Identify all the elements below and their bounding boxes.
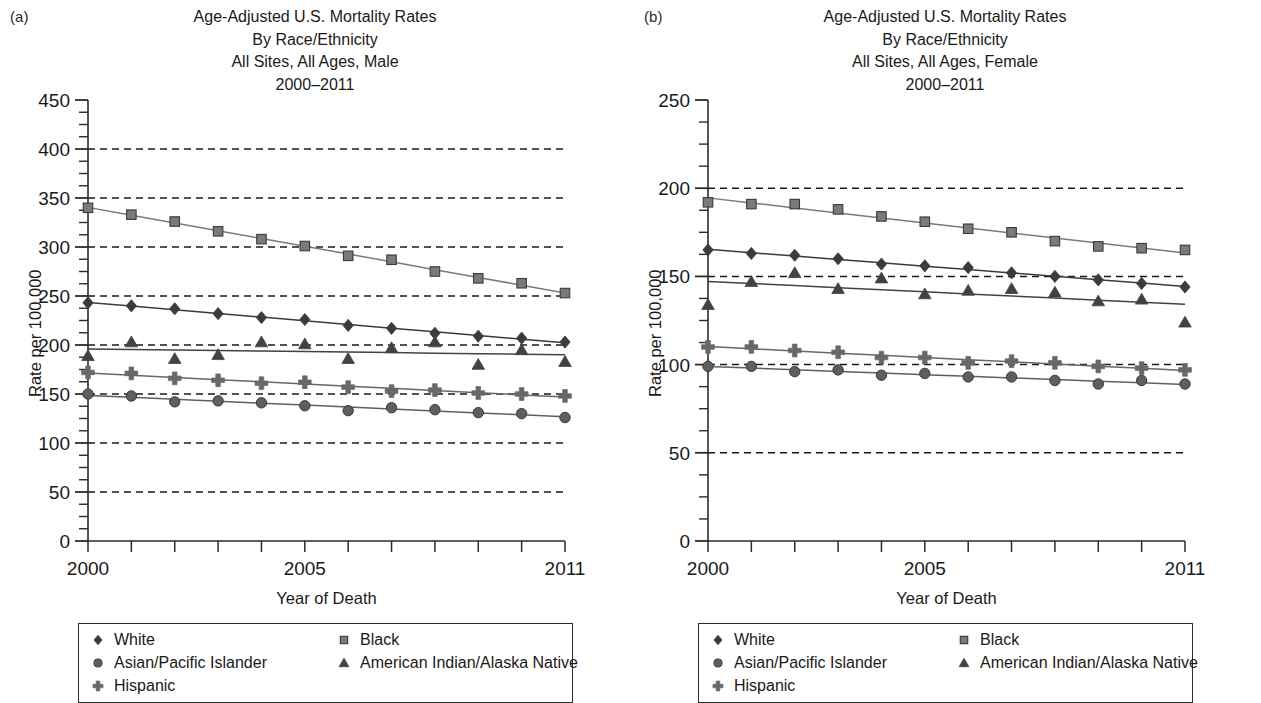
plus-marker (1005, 355, 1018, 368)
diamond-marker (126, 300, 136, 312)
triangle-marker (1049, 286, 1062, 297)
diamond-marker (94, 635, 102, 645)
diamond-marker (170, 303, 180, 315)
square-marker (790, 199, 800, 209)
square-marker (747, 199, 757, 209)
plus-marker (125, 367, 138, 380)
circle-marker (83, 389, 93, 399)
circle-marker (256, 398, 266, 408)
square-marker (340, 636, 347, 643)
y-tick-label: 400 (38, 139, 70, 160)
plus-marker (1049, 356, 1062, 369)
plus-marker (788, 344, 801, 357)
diamond-marker (256, 311, 266, 323)
circle-marker (1136, 375, 1146, 385)
series-line-triangle-marker (708, 281, 1185, 304)
y-tick-label: 450 (38, 90, 70, 111)
x-tick-label: 2000 (67, 558, 109, 579)
triangle-marker (875, 272, 888, 283)
panel-a-svg: 050100150200250300350400450200020052011 (0, 0, 630, 600)
panel-b-svg: 050100150200250200020052011 (630, 0, 1260, 600)
square-marker (833, 205, 843, 215)
triangle-marker (125, 336, 138, 347)
plus-marker (918, 351, 931, 364)
diamond-marker (213, 308, 223, 320)
square-marker (1094, 242, 1104, 252)
plus-marker (962, 356, 975, 369)
triangle-marker (168, 353, 181, 364)
diamond-marker (1180, 281, 1190, 293)
plus-marker (93, 681, 103, 691)
square-marker (170, 217, 180, 227)
square-marker (1050, 236, 1060, 246)
panel-b-y-axis-label: Rate per 100,000 (646, 269, 665, 397)
diamond-marker (1136, 277, 1146, 289)
legend-entry: Black (957, 631, 1019, 649)
legend-entry: White (91, 631, 155, 649)
y-tick-label: 350 (38, 188, 70, 209)
square-marker (703, 198, 713, 208)
square-marker (960, 636, 967, 643)
square-marker (560, 288, 570, 298)
plus-marker (832, 346, 845, 359)
plus-marker (711, 679, 725, 693)
triangle-marker (702, 299, 715, 310)
panel-a-legend: WhiteAsian/Pacific IslanderHispanicBlack… (78, 623, 573, 703)
diamond-marker (91, 633, 105, 647)
diamond-marker (790, 249, 800, 261)
triangle-marker (299, 338, 312, 349)
diamond-marker (1006, 267, 1016, 279)
circle-marker (714, 659, 722, 667)
square-marker (920, 217, 930, 227)
square-marker (213, 227, 223, 237)
diamond-marker (83, 297, 93, 309)
square-marker (83, 203, 93, 213)
plus-marker (212, 374, 225, 387)
series-line-triangle-marker (88, 349, 565, 355)
panel-a: (a) Age-Adjusted U.S. Mortality Rates By… (0, 0, 630, 693)
square-marker (517, 279, 527, 289)
legend-label: Black (980, 631, 1019, 649)
circle-marker (343, 405, 353, 415)
diamond-marker (963, 261, 973, 273)
square-marker (387, 255, 397, 264)
square-marker (877, 212, 887, 222)
x-tick-label: 2011 (1165, 558, 1206, 579)
legend-entry: American Indian/Alaska Native (337, 654, 578, 672)
plus-marker (82, 366, 95, 379)
circle-marker (386, 403, 396, 413)
circle-marker (94, 659, 102, 667)
circle-marker (963, 372, 973, 382)
diamond-marker (920, 260, 930, 272)
plus-marker (298, 376, 311, 389)
legend-label: American Indian/Alaska Native (980, 654, 1198, 672)
circle-marker (473, 407, 483, 417)
circle-marker (711, 656, 725, 670)
legend-entry: American Indian/Alaska Native (957, 654, 1198, 672)
triangle-marker (472, 359, 485, 370)
triangle-marker (957, 656, 971, 670)
circle-marker (300, 401, 310, 411)
circle-marker (876, 370, 886, 380)
square-marker (1007, 228, 1017, 238)
triangle-marker (559, 356, 572, 367)
triangle-marker (745, 276, 758, 287)
triangle-marker (255, 336, 268, 347)
triangle-marker (962, 284, 975, 295)
diamond-marker (711, 633, 725, 647)
square-marker (474, 274, 484, 284)
circle-marker (920, 368, 930, 378)
triangle-marker (919, 288, 932, 299)
circle-marker (790, 366, 800, 376)
square-marker (430, 267, 440, 277)
plus-marker (168, 372, 181, 385)
square-marker (337, 633, 351, 647)
y-tick-label: 50 (669, 443, 690, 464)
series-line-square-marker (88, 207, 565, 293)
diamond-marker (714, 635, 722, 645)
y-tick-label: 50 (49, 482, 70, 503)
plus-marker (472, 387, 485, 400)
plus-marker (515, 388, 528, 401)
triangle-marker (337, 656, 351, 670)
